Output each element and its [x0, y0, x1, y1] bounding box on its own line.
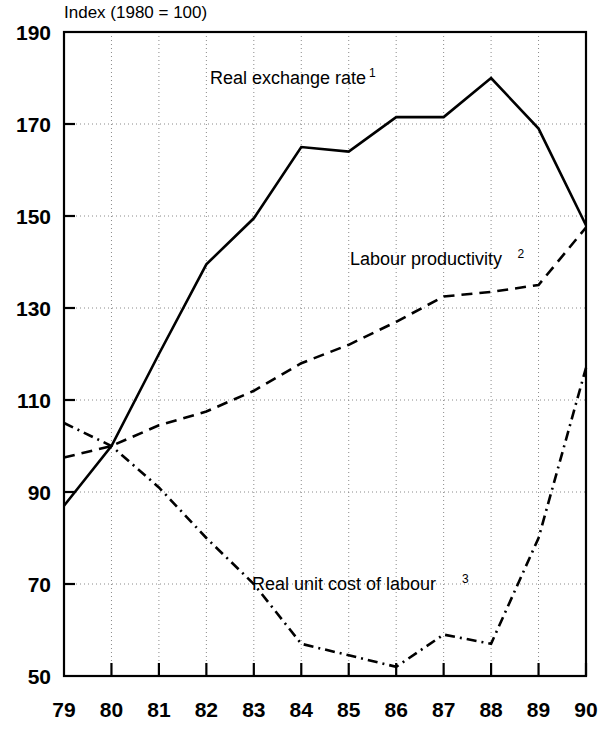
y-tick-label: 50	[28, 665, 51, 688]
x-tick-label: 82	[195, 698, 218, 721]
x-tick-label: 87	[432, 698, 455, 721]
series-annotation-footnote: 2	[518, 247, 525, 261]
chart-container: Index (1980 = 100) 507090110130150170190…	[0, 0, 605, 737]
series-annotation-label: Real unit cost of labour	[252, 574, 436, 594]
x-tick-label: 79	[52, 698, 75, 721]
chart-background	[0, 0, 605, 737]
series-annotation-footnote: 1	[369, 66, 376, 80]
index-line-chart: Index (1980 = 100) 507090110130150170190…	[0, 0, 605, 737]
series-annotation-footnote: 3	[462, 572, 469, 586]
series-annotation-1: Labour productivity2	[350, 247, 525, 269]
y-tick-label: 150	[16, 205, 51, 228]
x-tick-label: 86	[385, 698, 408, 721]
y-tick-label: 170	[16, 113, 51, 136]
x-tick-label: 88	[479, 698, 503, 721]
x-tick-label: 84	[290, 698, 314, 721]
chart-axis-title: Index (1980 = 100)	[64, 3, 207, 22]
y-tick-label: 130	[16, 297, 51, 320]
series-annotation-label: Real exchange rate	[210, 68, 366, 88]
x-tick-label: 81	[147, 698, 171, 721]
x-tick-label: 83	[242, 698, 265, 721]
series-annotation-label: Labour productivity	[350, 249, 502, 269]
x-tick-label: 80	[100, 698, 123, 721]
x-tick-label: 85	[337, 698, 361, 721]
x-tick-label: 89	[527, 698, 550, 721]
y-tick-label: 70	[28, 573, 51, 596]
series-annotation-0: Real exchange rate1	[210, 66, 376, 88]
x-tick-label: 90	[574, 698, 597, 721]
y-tick-label: 110	[17, 389, 51, 412]
y-tick-label: 90	[28, 481, 51, 504]
y-tick-label: 190	[16, 21, 51, 44]
